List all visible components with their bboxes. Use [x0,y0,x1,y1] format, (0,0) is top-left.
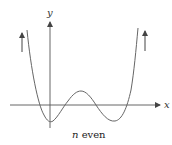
caption-text: even [78,129,106,140]
y-axis-label: y [46,7,53,18]
figure-caption: n even [72,129,106,140]
x-axis-label: x [164,99,170,110]
polynomial-graph: x y n even [0,0,172,145]
polynomial-curve [27,28,138,122]
